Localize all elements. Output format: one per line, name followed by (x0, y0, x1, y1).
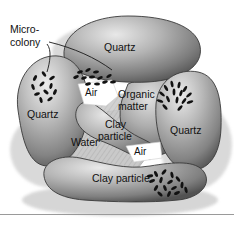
label-microcolony-line1: Micro- (10, 23, 40, 35)
diagram-canvas: Micro- colony Quartz Quartz Quartz Air A… (0, 0, 234, 226)
label-microcolony-line2: colony (10, 36, 41, 48)
label-air-lower: Air (134, 146, 147, 157)
label-quartz-right: Quartz (170, 124, 202, 136)
label-air-upper: Air (85, 87, 98, 98)
label-organic-matter-line2: matter (118, 100, 148, 112)
label-quartz-left: Quartz (27, 108, 59, 120)
label-organic-matter-line1: Organic (118, 88, 155, 100)
bottom-divider (0, 214, 234, 215)
label-quartz-top: Quartz (104, 41, 136, 53)
soil-microstructure-figure: Micro- colony Quartz Quartz Quartz Air A… (0, 0, 234, 226)
label-water: Water (71, 136, 99, 148)
label-clay-particle-bottom: Clay particle (92, 172, 150, 184)
label-clay-particle-center-line2: particle (98, 130, 132, 142)
label-clay-particle-center-line1: Clay (105, 118, 127, 130)
